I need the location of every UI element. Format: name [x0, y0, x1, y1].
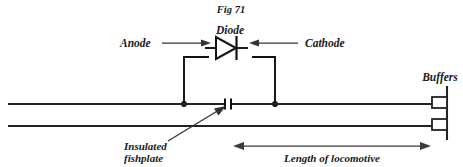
cathode-arrow-icon — [249, 39, 298, 46]
cathode-label: Cathode — [305, 37, 345, 49]
cathode-wire — [252, 57, 275, 104]
fishplate-leader-arrow-icon — [168, 106, 226, 141]
buffer-lower — [432, 119, 447, 130]
length-of-locomotive-dimension-arrow-icon — [233, 142, 431, 150]
insulated-fishplate-icon — [225, 99, 231, 110]
buffer-upper — [432, 97, 447, 108]
diagram-canvas: Fig 71 Diode Anode Cathode — [0, 0, 463, 167]
diode-triangle-icon — [216, 37, 236, 59]
length-of-locomotive-label: Length of locomotive — [283, 152, 380, 164]
figure-caption: Fig 71 — [216, 4, 245, 15]
anode-arrow-icon — [162, 39, 211, 46]
diode-symbol-icon — [205, 36, 248, 60]
buffers-label: Buffers — [421, 71, 458, 84]
insulated-fishplate-label-line1: Insulated — [123, 140, 167, 152]
buffer-stop-icon — [432, 86, 447, 140]
figure-diagram: Fig 71 Diode Anode Cathode — [0, 0, 463, 167]
anode-wire — [184, 57, 209, 104]
diode-label: Diode — [215, 24, 244, 36]
anode-label: Anode — [119, 37, 151, 49]
insulated-fishplate-label-line2: fishplate — [124, 152, 163, 164]
